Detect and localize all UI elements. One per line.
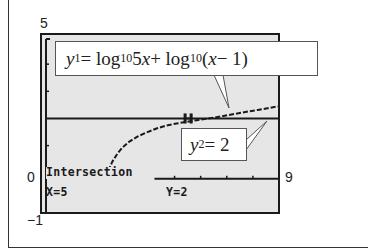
ymin-label: −1	[27, 213, 43, 227]
intersection-label: Intersection	[46, 167, 135, 179]
y-readout: Y=2	[166, 187, 188, 199]
y2-equation-callout: y2 = 2	[181, 128, 247, 161]
xmax-label: 9	[285, 170, 293, 184]
y1-equation-callout: y1 = log10 5x + log10 (x − 1)	[55, 41, 318, 76]
ymax-label: 5	[40, 16, 48, 30]
xmin-label: 0	[27, 170, 35, 184]
x-readout: X=5	[46, 187, 68, 199]
